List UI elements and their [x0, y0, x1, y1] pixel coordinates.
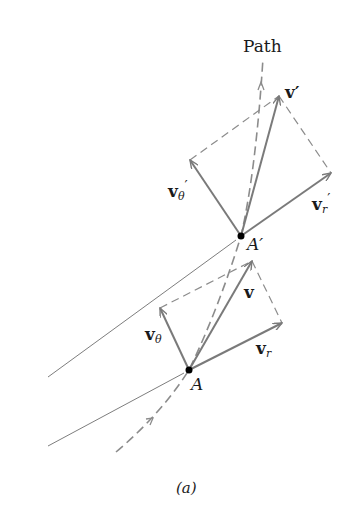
- dashed-side-A-prime-r: [279, 96, 331, 173]
- label-v-prime-text: v′: [285, 82, 299, 102]
- vector-vtheta-at-A: [160, 308, 189, 370]
- label-vtheta-base: v: [145, 324, 155, 344]
- label-vtheta-prime: vθ′: [168, 179, 188, 202]
- label-vr-prime-mark: ′: [327, 191, 330, 207]
- radial-line-A: [48, 373, 184, 446]
- radial-line-A-prime: [48, 240, 236, 377]
- vector-vtheta-at-A-prime: [190, 160, 241, 236]
- label-vr-sub: r: [266, 347, 271, 360]
- label-vr-prime: vr′: [312, 192, 330, 215]
- label-vr-prime-base: v: [312, 194, 322, 214]
- path-curve: [116, 58, 263, 452]
- vector-v-at-A-prime: [241, 96, 279, 236]
- polar-velocity-diagram: Path v′ vθ′ vr′ A′ v vθ vr A (a): [0, 0, 354, 508]
- label-vtheta-prime-sub: θ: [178, 190, 185, 203]
- dashed-side-A-prime-theta: [190, 96, 279, 160]
- label-vtheta-prime-base: v: [168, 181, 178, 201]
- path-label: Path: [243, 38, 282, 55]
- label-v-prime: v′: [285, 84, 299, 101]
- label-A: A: [191, 376, 203, 393]
- label-A-prime: A′: [247, 236, 263, 253]
- figure-caption: (a): [176, 481, 197, 496]
- label-vr-base: v: [256, 338, 266, 358]
- label-vtheta-sub: θ: [155, 333, 162, 346]
- label-vtheta-prime-mark: ′: [185, 178, 188, 194]
- label-vtheta: vθ: [145, 326, 162, 345]
- diagram-canvas: [0, 0, 354, 508]
- label-v: v: [244, 284, 254, 301]
- label-vr: vr: [256, 340, 271, 359]
- dashed-side-A-r: [252, 261, 282, 323]
- path-arrow-upper-icon: [258, 82, 264, 90]
- point-A-prime: [238, 233, 245, 240]
- point-A: [186, 367, 193, 374]
